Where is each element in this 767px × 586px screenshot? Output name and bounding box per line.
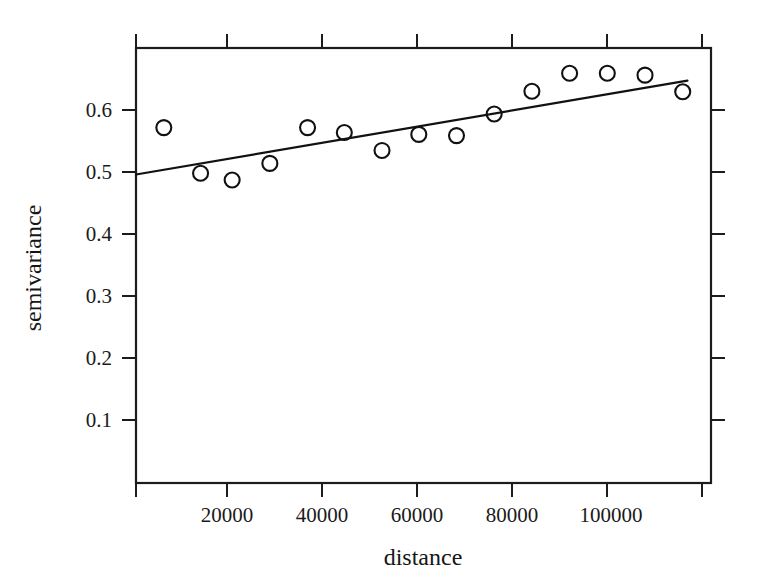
y-axis-ticks-right bbox=[711, 110, 725, 420]
x-tick-label: 60000 bbox=[391, 503, 444, 527]
x-tick-label: 20000 bbox=[201, 503, 254, 527]
x-axis-ticks-bottom bbox=[136, 483, 702, 497]
y-tick-label: 0.3 bbox=[86, 284, 112, 308]
data-point bbox=[524, 84, 539, 99]
data-point bbox=[156, 120, 171, 135]
fit-line bbox=[136, 81, 687, 175]
y-tick-label: 0.1 bbox=[86, 408, 112, 432]
y-axis-title: semivariance bbox=[20, 205, 46, 332]
data-point bbox=[638, 68, 653, 83]
chart-svg: 0.6 0.5 0.4 0.3 0.2 0.1 20000 40000 6000… bbox=[0, 0, 767, 586]
data-point bbox=[225, 173, 240, 188]
y-tick-label: 0.4 bbox=[86, 222, 113, 246]
x-axis-ticks-top bbox=[136, 34, 702, 48]
data-point bbox=[675, 84, 690, 99]
x-tick-label: 40000 bbox=[296, 503, 349, 527]
x-tick-label: 80000 bbox=[486, 503, 539, 527]
data-point bbox=[262, 156, 277, 171]
y-tick-label: 0.2 bbox=[86, 346, 112, 370]
x-tick-labels: 20000 40000 60000 80000 100000 bbox=[201, 503, 643, 527]
data-point bbox=[337, 125, 352, 140]
y-tick-labels: 0.6 0.5 0.4 0.3 0.2 0.1 bbox=[86, 98, 113, 432]
data-point bbox=[600, 66, 615, 81]
data-point bbox=[193, 166, 208, 181]
y-tick-label: 0.6 bbox=[86, 98, 112, 122]
data-point bbox=[562, 66, 577, 81]
data-point bbox=[411, 127, 426, 142]
data-point bbox=[375, 143, 390, 158]
x-axis-title: distance bbox=[384, 544, 463, 570]
y-axis-ticks-left bbox=[122, 110, 136, 420]
plot-frame bbox=[136, 48, 711, 483]
data-point bbox=[300, 120, 315, 135]
data-point bbox=[449, 128, 464, 143]
semivariogram-figure: 0.6 0.5 0.4 0.3 0.2 0.1 20000 40000 6000… bbox=[0, 0, 767, 586]
x-tick-label: 100000 bbox=[580, 503, 643, 527]
y-tick-label: 0.5 bbox=[86, 160, 112, 184]
